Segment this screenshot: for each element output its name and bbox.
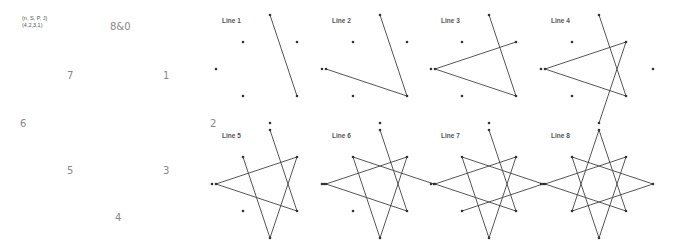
star-vertex-dot	[598, 129, 601, 132]
star-vertex-dot	[242, 95, 245, 98]
star-vertex-dot	[598, 14, 601, 17]
star-vertex-dot	[461, 210, 464, 213]
star-vertex-dot	[598, 122, 601, 125]
star-vertex-dot	[242, 41, 245, 44]
star-vertex-dot	[625, 210, 628, 213]
star-vertex-dot	[296, 95, 299, 98]
star-segment	[435, 42, 516, 69]
star-segment	[270, 15, 297, 96]
star-vertex-dot	[515, 210, 518, 213]
star-vertex-dot	[598, 237, 601, 240]
star-vertex-dot	[488, 129, 491, 132]
star-vertex-dot	[625, 41, 628, 44]
star-construction-diagram	[0, 0, 673, 251]
star-vertex-dot	[321, 68, 324, 71]
star-vertex-dot	[571, 156, 574, 159]
star-vertex-dot	[242, 156, 245, 159]
star-segment	[545, 69, 626, 96]
star-vertex-dot	[215, 68, 218, 71]
star-vertex-dot	[269, 14, 272, 17]
star-segment	[353, 157, 380, 238]
star-vertex-dot	[211, 183, 214, 186]
panel-line-6	[321, 129, 436, 240]
star-vertex-dot	[352, 156, 355, 159]
panel-line-7	[430, 129, 545, 240]
star-vertex-dot	[296, 156, 299, 159]
star-vertex-dot	[515, 41, 518, 44]
star-vertex-dot	[434, 183, 437, 186]
star-vertex-dot	[352, 210, 355, 213]
star-vertex-dot	[379, 14, 382, 17]
star-vertex-dot	[540, 68, 543, 71]
star-vertex-dot	[269, 129, 272, 132]
star-vertex-dot	[269, 122, 272, 125]
star-segment	[462, 157, 489, 238]
star-segment	[380, 15, 407, 96]
star-vertex-dot	[625, 156, 628, 159]
star-vertex-dot	[321, 183, 324, 186]
panel-line-3	[430, 14, 518, 125]
star-vertex-dot	[379, 129, 382, 132]
star-vertex-dot	[406, 95, 409, 98]
star-vertex-dot	[488, 122, 491, 125]
star-vertex-dot	[515, 95, 518, 98]
star-vertex-dot	[488, 14, 491, 17]
star-vertex-dot	[652, 68, 655, 71]
panel-line-8	[540, 129, 655, 240]
star-vertex-dot	[461, 156, 464, 159]
star-vertex-dot	[571, 41, 574, 44]
star-vertex-dot	[571, 95, 574, 98]
star-vertex-dot	[352, 95, 355, 98]
star-vertex-dot	[571, 210, 574, 213]
star-vertex-dot	[215, 183, 218, 186]
star-vertex-dot	[352, 41, 355, 44]
star-vertex-dot	[544, 183, 547, 186]
star-vertex-dot	[406, 156, 409, 159]
star-segment	[435, 69, 516, 96]
star-segment	[326, 69, 407, 96]
star-vertex-dot	[242, 210, 245, 213]
star-segment	[243, 157, 270, 238]
star-vertex-dot	[325, 183, 328, 186]
star-vertex-dot	[406, 210, 409, 213]
star-vertex-dot	[434, 68, 437, 71]
star-vertex-dot	[430, 68, 433, 71]
star-vertex-dot	[430, 183, 433, 186]
star-vertex-dot	[379, 122, 382, 125]
star-vertex-dot	[488, 237, 491, 240]
star-segment	[489, 15, 516, 96]
star-vertex-dot	[515, 156, 518, 159]
star-vertex-dot	[325, 68, 328, 71]
star-vertex-dot	[625, 95, 628, 98]
star-vertex-dot	[406, 41, 409, 44]
panel-line-5	[211, 129, 326, 240]
star-vertex-dot	[296, 41, 299, 44]
star-vertex-dot	[540, 183, 543, 186]
star-vertex-dot	[461, 95, 464, 98]
star-segment	[545, 42, 626, 69]
panel-line-2	[321, 14, 409, 125]
star-vertex-dot	[379, 237, 382, 240]
star-vertex-dot	[652, 183, 655, 186]
star-segment	[216, 157, 297, 184]
panel-line-4	[540, 14, 655, 125]
star-vertex-dot	[544, 68, 547, 71]
star-vertex-dot	[296, 210, 299, 213]
panel-line-1	[215, 14, 299, 125]
star-vertex-dot	[269, 237, 272, 240]
star-vertex-dot	[461, 41, 464, 44]
